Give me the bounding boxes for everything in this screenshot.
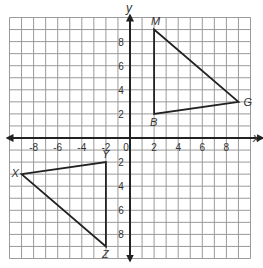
y-tick-label: 6 <box>118 61 124 72</box>
x-tick-label: 2 <box>151 142 157 153</box>
x-tick-label: 8 <box>224 142 230 153</box>
x-axis-label: x <box>252 131 260 145</box>
y-tick-label: 6 <box>118 205 124 216</box>
y-tick-label: 8 <box>118 229 124 240</box>
y-tick-label: 2 <box>118 157 124 168</box>
x-tick-label: -6 <box>53 142 62 153</box>
x-tick-label: -8 <box>29 142 38 153</box>
vertex-label-g: G <box>243 96 252 108</box>
y-axis-label: y <box>125 1 133 15</box>
vertex-label-x: X <box>11 167 20 179</box>
y-tick-label: 4 <box>118 181 124 192</box>
vertex-label-m: M <box>151 15 161 27</box>
x-tick-label: 4 <box>175 142 181 153</box>
vertex-label-b: B <box>150 116 157 128</box>
x-tick-label: 6 <box>200 142 206 153</box>
vertex-label-y: Y <box>102 148 110 160</box>
x-tick-label: 0 <box>123 142 129 153</box>
triangle-xyz <box>22 162 106 246</box>
x-tick-label: -4 <box>77 142 86 153</box>
y-tick-label: 8 <box>118 37 124 48</box>
y-tick-label: 2 <box>118 109 124 120</box>
triangle-mbg <box>154 30 238 114</box>
y-tick-label: 4 <box>118 85 124 96</box>
coordinate-plane: -8-6-4-20246886422468 MBGXYZ x y <box>0 0 263 268</box>
vertex-label-z: Z <box>101 248 110 260</box>
